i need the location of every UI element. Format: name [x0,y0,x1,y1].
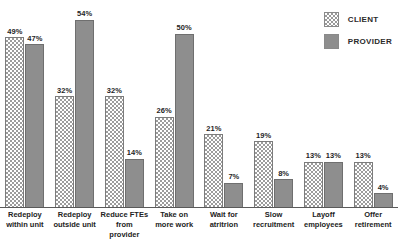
bar-rect [374,193,393,207]
chart-legend: CLIENT PROVIDER [324,12,392,49]
bar-group: 32%54% [50,0,100,207]
x-axis-labels: Redeploywithin unitRedeployoutside unitR… [0,210,398,240]
bar-value-label: 54% [77,10,92,18]
x-axis-label-line: atritrion [200,220,248,230]
bar-rect [224,183,243,207]
bar-rect [274,179,293,207]
bar-value-label: 32% [57,87,72,95]
legend-label-client: CLIENT [348,15,379,24]
bar-rect [324,162,343,207]
x-axis-label-line: Layoff [300,210,348,220]
bar-value-label: 14% [127,149,142,157]
bar-value-label: 21% [206,125,221,133]
x-axis-line [0,207,398,208]
x-axis-label-line: Take on [150,210,198,220]
bar-value-label: 32% [107,87,122,95]
bar-rect [75,20,94,207]
bar-value-label: 50% [177,24,192,32]
bar-provider: 8% [274,0,293,207]
bar-rect [304,162,323,207]
x-axis-label-line: recruitment [250,220,298,230]
bar-client: 21% [204,0,223,207]
bar-value-label: 13% [356,152,371,160]
x-axis-label: Redeploywithin unit [0,210,50,240]
bar-group: 19%8% [249,0,299,207]
bar-rect [204,134,223,207]
bar-client: 19% [254,0,273,207]
provider-swatch-icon [324,34,339,49]
bar-client: 26% [155,0,174,207]
bar-rect [354,162,373,207]
x-axis-label-line: more work [150,220,198,230]
bar-client: 32% [55,0,74,207]
x-axis-label-line: Redeploy [1,210,49,220]
bar-value-label: 4% [378,184,389,192]
x-axis-label-line: retirement [349,220,397,230]
x-axis-label-line: Reduce FTEs [101,210,149,220]
x-axis-label-line: outside unit [51,220,99,230]
x-axis-label-line: employees [300,220,348,230]
bar-rect [254,141,273,207]
bar-provider: 14% [125,0,144,207]
bar-value-label: 49% [7,28,22,36]
x-axis-label-line: Offer [349,210,397,220]
legend-label-provider: PROVIDER [348,37,392,46]
bar-rect [5,37,24,207]
client-swatch-icon [324,12,339,27]
x-axis-label-line: Redeploy [51,210,99,220]
legend-item-client: CLIENT [324,12,392,27]
bar-group: 26%50% [149,0,199,207]
x-axis-label-line: Wait for [200,210,248,220]
bar-value-label: 13% [306,152,321,160]
bar-chart: CLIENT PROVIDER 49%47%32%54%32%14%26%50%… [0,0,398,247]
bar-rect [155,117,174,207]
bar-value-label: 26% [157,107,172,115]
bar-client: 49% [5,0,24,207]
x-axis-label: Redeployoutside unit [50,210,100,240]
bar-rect [55,96,74,207]
bar-value-label: 19% [256,132,271,140]
x-axis-label-line: from provider [101,220,149,240]
bar-provider: 47% [25,0,44,207]
bar-client: 32% [105,0,124,207]
bar-provider: 50% [175,0,194,207]
bar-value-label: 13% [326,152,341,160]
bar-group: 32%14% [100,0,150,207]
bar-group: 21%7% [199,0,249,207]
bar-rect [25,44,44,207]
x-axis-label: Offerretirement [348,210,398,240]
legend-item-provider: PROVIDER [324,34,392,49]
bar-rect [175,34,194,207]
bar-value-label: 8% [278,170,289,178]
bar-rect [105,96,124,207]
bar-rect [125,159,144,208]
x-axis-label: Slowrecruitment [249,210,299,240]
x-axis-label-line: Slow [250,210,298,220]
bar-group: 49%47% [0,0,50,207]
x-axis-label: Take onmore work [149,210,199,240]
bar-provider: 7% [224,0,243,207]
x-axis-label: Layoffemployees [299,210,349,240]
bar-provider: 54% [75,0,94,207]
bar-value-label: 47% [27,35,42,43]
x-axis-label-line: within unit [1,220,49,230]
x-axis-label: Reduce FTEsfrom provider [100,210,150,240]
x-axis-label: Wait foratritrion [199,210,249,240]
bar-value-label: 7% [228,173,239,181]
bar-client: 13% [304,0,323,207]
